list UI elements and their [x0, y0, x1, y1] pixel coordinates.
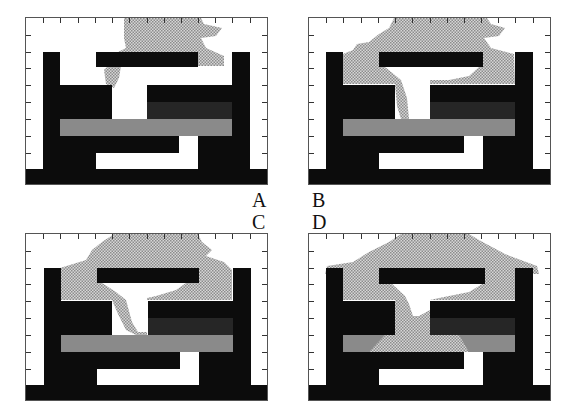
tick — [309, 102, 314, 103]
tick — [26, 284, 31, 285]
tick — [343, 234, 344, 239]
top-bar — [97, 268, 199, 283]
lower-left-fill — [326, 369, 379, 385]
tick — [181, 234, 182, 239]
tick — [309, 119, 314, 120]
tick — [545, 119, 550, 120]
tick — [545, 136, 550, 137]
tick — [78, 234, 79, 239]
tick — [545, 268, 550, 269]
lower-right-block — [483, 352, 515, 385]
right-pillar — [515, 52, 533, 169]
tick — [164, 18, 165, 23]
top-bar — [379, 52, 483, 67]
tick — [533, 234, 534, 239]
tick — [361, 18, 362, 23]
tick — [545, 102, 550, 103]
lower-left-fill — [44, 369, 97, 385]
right-pillar — [233, 268, 251, 385]
tick — [309, 153, 314, 154]
tick — [326, 18, 327, 23]
tick — [26, 369, 31, 370]
tick — [545, 153, 550, 154]
grey-layer — [60, 119, 232, 136]
panel-label-c: C — [252, 212, 265, 232]
tick — [26, 136, 31, 137]
lower-right-block — [483, 136, 515, 169]
tick — [309, 268, 314, 269]
tick — [309, 251, 314, 252]
tick — [262, 68, 267, 69]
tick — [309, 68, 314, 69]
tick — [498, 18, 499, 23]
tick — [26, 119, 31, 120]
tick — [378, 18, 379, 23]
tick — [112, 18, 113, 23]
tick — [545, 284, 550, 285]
tick — [26, 85, 31, 86]
tick — [26, 268, 31, 269]
tick — [26, 52, 31, 53]
tick — [545, 318, 550, 319]
tick — [533, 18, 534, 23]
tick — [545, 251, 550, 252]
tick — [395, 234, 396, 239]
tick — [26, 335, 31, 336]
tick — [262, 85, 267, 86]
tick — [262, 251, 267, 252]
tick — [545, 35, 550, 36]
tick — [262, 301, 267, 302]
panel-d — [308, 233, 551, 401]
middle-right-block — [430, 85, 515, 102]
middle-right-block — [147, 85, 232, 102]
lower-left-block — [43, 136, 179, 153]
tick — [545, 68, 550, 69]
tick — [129, 234, 130, 239]
tick — [215, 18, 216, 23]
tick — [412, 234, 413, 239]
tick — [309, 136, 314, 137]
tick — [447, 18, 448, 23]
tick — [181, 18, 182, 23]
tick — [215, 234, 216, 239]
tick — [515, 234, 516, 239]
tick — [412, 18, 413, 23]
middle-right-dark-layer — [148, 318, 233, 335]
tick — [26, 318, 31, 319]
tick — [95, 18, 96, 23]
tick — [361, 234, 362, 239]
tick — [198, 18, 199, 23]
tick — [262, 335, 267, 336]
middle-left-block — [61, 301, 112, 335]
tick — [430, 234, 431, 239]
tick — [309, 284, 314, 285]
tick — [26, 102, 31, 103]
tick — [309, 35, 314, 36]
tick — [232, 234, 233, 239]
middle-right-dark-layer — [147, 102, 232, 119]
tick — [395, 18, 396, 23]
tick — [262, 284, 267, 285]
tick — [262, 153, 267, 154]
tick — [498, 234, 499, 239]
tick — [250, 18, 251, 23]
tick — [262, 318, 267, 319]
grey-layer — [61, 335, 233, 352]
tick — [545, 52, 550, 53]
lower-right-block — [199, 352, 233, 385]
tick — [430, 18, 431, 23]
tick — [147, 18, 148, 23]
tick — [545, 369, 550, 370]
tick — [309, 52, 314, 53]
tick — [343, 18, 344, 23]
tick — [164, 234, 165, 239]
tick — [545, 301, 550, 302]
panel-label-d: D — [312, 212, 326, 232]
tick — [95, 234, 96, 239]
middle-right-block — [148, 301, 233, 318]
tick — [481, 234, 482, 239]
tick — [262, 35, 267, 36]
tick — [515, 18, 516, 23]
lower-left-fill — [326, 153, 379, 169]
tick — [78, 18, 79, 23]
